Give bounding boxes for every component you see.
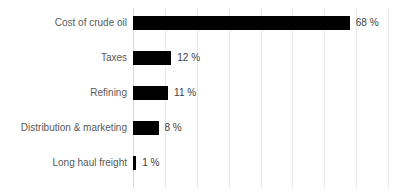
bar-value-label: 8 % — [165, 121, 182, 135]
category-label: Refining — [0, 86, 127, 100]
category-label: Taxes — [0, 51, 127, 65]
category-label: Cost of crude oil — [0, 16, 127, 30]
gridline — [261, 8, 262, 188]
bar — [133, 16, 350, 30]
gridline — [388, 8, 389, 188]
bar-value-label: 68 % — [356, 16, 379, 30]
gridline — [292, 8, 293, 188]
gridline — [197, 8, 198, 188]
bar-value-label: 1 % — [142, 156, 159, 170]
gridline — [229, 8, 230, 188]
gridline — [324, 8, 325, 188]
bar — [133, 86, 168, 100]
bar-value-label: 11 % — [174, 86, 196, 100]
bar — [133, 156, 136, 170]
bar-chart: Cost of crude oil68 %Taxes12 %Refining11… — [0, 0, 400, 195]
bar — [133, 51, 171, 65]
category-label: Distribution & marketing — [0, 121, 127, 135]
bar-value-label: 12 % — [177, 51, 200, 65]
category-label: Long haul freight — [0, 156, 127, 170]
gridline — [356, 8, 357, 188]
bar — [133, 121, 159, 135]
